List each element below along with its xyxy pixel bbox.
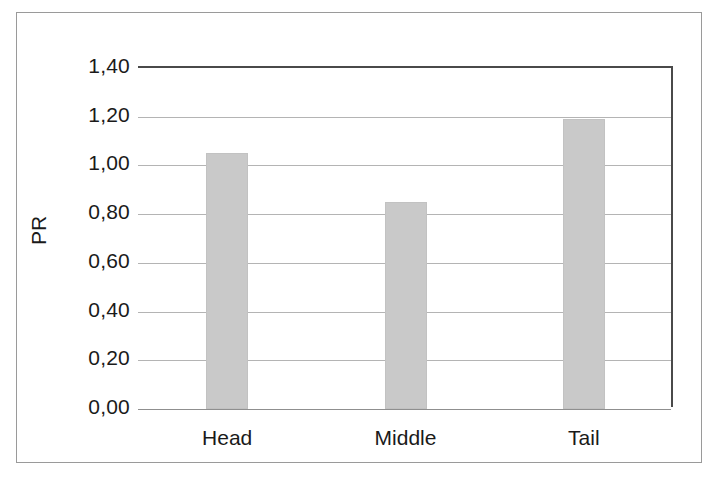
x-axis-label-middle: Middle [326, 426, 486, 450]
y-axis-tick-label: 0,40 [20, 299, 130, 320]
y-axis-tick-label: 1,00 [20, 152, 130, 173]
y-axis-tick-labels: 0,000,200,400,600,801,001,201,40 [8, 0, 130, 481]
gridline [138, 117, 671, 118]
x-axis-label-tail: Tail [504, 426, 664, 450]
x-axis-label-head: Head [147, 426, 307, 450]
bar-tail[interactable] [563, 119, 605, 409]
y-axis-tick-label: 0,20 [20, 347, 130, 368]
y-axis-tick-label: 1,20 [20, 104, 130, 125]
gridline [138, 409, 671, 410]
y-axis-tick-label: 0,80 [20, 201, 130, 222]
y-axis-tick-label: 0,00 [20, 396, 130, 417]
y-axis-tick-label: 1,40 [20, 55, 130, 76]
y-axis-tick-label: 0,60 [20, 250, 130, 271]
bar-head[interactable] [206, 153, 248, 409]
bar-chart: PR 0,000,200,400,600,801,001,201,40 Head… [0, 0, 720, 481]
plot-area [138, 66, 673, 407]
bar-middle[interactable] [385, 202, 427, 409]
